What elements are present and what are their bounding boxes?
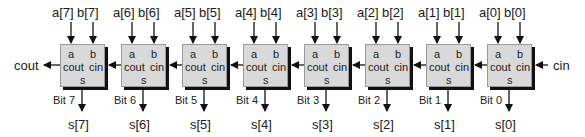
input-a-label: a[5] bbox=[174, 5, 196, 20]
input-a-label: a[3] bbox=[296, 5, 318, 20]
port-cin-label: cin bbox=[394, 61, 408, 73]
input-b-label: b[0] bbox=[504, 5, 526, 20]
port-b-label: b bbox=[334, 48, 340, 60]
input-b-label: b[3] bbox=[321, 5, 343, 20]
port-a-label: a bbox=[129, 48, 135, 60]
input-a-label: a[0] bbox=[479, 5, 501, 20]
port-s-label: s bbox=[385, 74, 391, 86]
full-adder-block-bit-5: abcoutcins bbox=[182, 44, 227, 87]
port-a-label: a bbox=[68, 48, 74, 60]
port-s-label: s bbox=[446, 74, 452, 86]
port-b-label: b bbox=[151, 48, 157, 60]
bit-index-label: Bit 2 bbox=[358, 94, 380, 106]
bit-index-label: Bit 0 bbox=[480, 94, 502, 106]
sum-output-label: s[2] bbox=[373, 117, 394, 132]
input-a-label: a[2] bbox=[357, 5, 379, 20]
input-b-label: b[2] bbox=[382, 5, 404, 20]
port-cin-label: cin bbox=[272, 61, 286, 73]
input-b-label: b[7] bbox=[77, 5, 99, 20]
port-cout-label: cout bbox=[429, 61, 450, 73]
port-b-label: b bbox=[212, 48, 218, 60]
bit-index-label: Bit 6 bbox=[114, 94, 136, 106]
full-adder-block-bit-4: abcoutcins bbox=[243, 44, 288, 87]
sum-output-label: s[6] bbox=[129, 117, 150, 132]
port-cout-label: cout bbox=[307, 61, 328, 73]
port-cout-label: cout bbox=[185, 61, 206, 73]
carry-in-label: cin bbox=[553, 58, 570, 73]
sum-output-label: s[3] bbox=[312, 117, 333, 132]
input-a-label: a[6] bbox=[113, 5, 135, 20]
port-b-label: b bbox=[456, 48, 462, 60]
bit-index-label: Bit 1 bbox=[419, 94, 441, 106]
port-b-label: b bbox=[273, 48, 279, 60]
port-a-label: a bbox=[251, 48, 257, 60]
port-cin-label: cin bbox=[150, 61, 164, 73]
port-cout-label: cout bbox=[63, 61, 84, 73]
port-a-label: a bbox=[434, 48, 440, 60]
port-cin-label: cin bbox=[211, 61, 225, 73]
sum-output-label: s[4] bbox=[251, 117, 272, 132]
port-s-label: s bbox=[507, 74, 513, 86]
port-cin-label: cin bbox=[516, 61, 530, 73]
full-adder-block-bit-1: abcoutcins bbox=[426, 44, 471, 87]
port-cout-label: cout bbox=[246, 61, 267, 73]
port-cout-label: cout bbox=[368, 61, 389, 73]
bit-index-label: Bit 3 bbox=[297, 94, 319, 106]
port-s-label: s bbox=[324, 74, 330, 86]
full-adder-block-bit-0: abcoutcins bbox=[487, 44, 532, 87]
sum-output-label: s[1] bbox=[434, 117, 455, 132]
port-b-label: b bbox=[90, 48, 96, 60]
bit-index-label: Bit 4 bbox=[236, 94, 258, 106]
port-s-label: s bbox=[263, 74, 269, 86]
input-b-label: b[1] bbox=[443, 5, 465, 20]
full-adder-block-bit-6: abcoutcins bbox=[121, 44, 166, 87]
port-s-label: s bbox=[80, 74, 86, 86]
full-adder-block-bit-3: abcoutcins bbox=[304, 44, 349, 87]
sum-output-label: s[5] bbox=[190, 117, 211, 132]
sum-output-label: s[7] bbox=[68, 117, 89, 132]
port-b-label: b bbox=[517, 48, 523, 60]
input-b-label: b[5] bbox=[199, 5, 221, 20]
port-a-label: a bbox=[373, 48, 379, 60]
port-b-label: b bbox=[395, 48, 401, 60]
sum-output-label: s[0] bbox=[495, 117, 516, 132]
port-cin-label: cin bbox=[333, 61, 347, 73]
input-b-label: b[6] bbox=[138, 5, 160, 20]
input-a-label: a[1] bbox=[418, 5, 440, 20]
port-s-label: s bbox=[202, 74, 208, 86]
port-a-label: a bbox=[495, 48, 501, 60]
input-a-label: a[7] bbox=[52, 5, 74, 20]
input-a-label: a[4] bbox=[235, 5, 257, 20]
carry-out-label: cout bbox=[14, 58, 39, 73]
port-a-label: a bbox=[312, 48, 318, 60]
input-b-label: b[4] bbox=[260, 5, 282, 20]
port-s-label: s bbox=[141, 74, 147, 86]
port-cin-label: cin bbox=[455, 61, 469, 73]
port-cout-label: cout bbox=[124, 61, 145, 73]
port-cout-label: cout bbox=[490, 61, 511, 73]
port-cin-label: cin bbox=[89, 61, 103, 73]
port-a-label: a bbox=[190, 48, 196, 60]
bit-index-label: Bit 5 bbox=[175, 94, 197, 106]
full-adder-block-bit-2: abcoutcins bbox=[365, 44, 410, 87]
bit-index-label: Bit 7 bbox=[53, 94, 75, 106]
full-adder-block-bit-7: abcoutcins bbox=[60, 44, 105, 87]
